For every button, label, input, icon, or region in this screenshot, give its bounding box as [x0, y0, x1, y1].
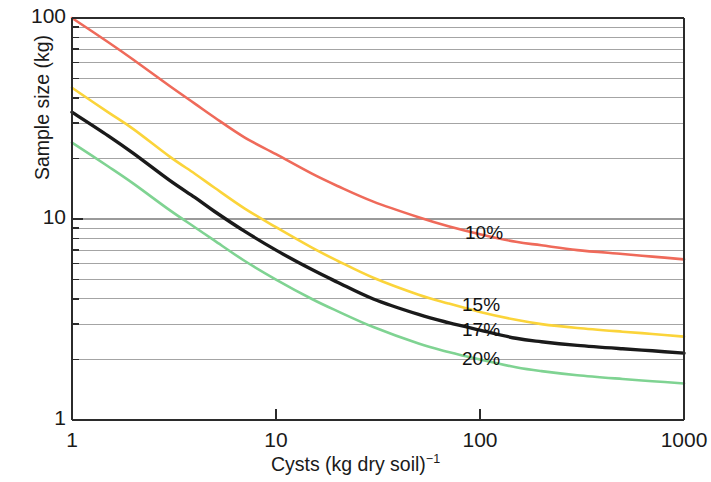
x-tick-label: 1 — [32, 428, 112, 452]
log-log-line-chart — [0, 0, 711, 482]
x-axis-label-base: Cysts (kg dry soil) — [271, 453, 426, 475]
x-tick-label: 100 — [440, 428, 520, 452]
x-axis-label: Cysts (kg dry soil)−1 — [0, 452, 711, 476]
y-tick-label-text: 10 — [43, 205, 66, 229]
x-axis-label-exponent: −1 — [426, 452, 440, 466]
y-tick-label-text: 100 — [31, 4, 66, 28]
y-axis-label: Sample size (kg) — [31, 0, 54, 238]
series-label-17pct: 17% — [462, 319, 500, 341]
chart-figure: Sample size (kg) Cysts (kg dry soil)−1 1… — [0, 0, 711, 482]
y-tick-label-text: 1 — [54, 406, 66, 430]
series-label-20pct: 20% — [462, 348, 500, 370]
x-tick-label: 1000 — [644, 428, 711, 452]
series-label-15pct: 15% — [462, 294, 500, 316]
x-tick-label: 10 — [236, 428, 316, 452]
series-label-10pct: 10% — [465, 222, 503, 244]
